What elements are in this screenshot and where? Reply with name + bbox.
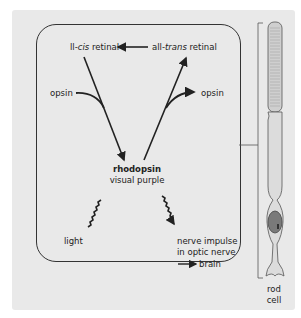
cis-retinal-label: ll-cis retinal	[70, 42, 119, 52]
trans-retinal-label: all-trans retinal	[152, 42, 217, 52]
nerve-squiggle-icon	[162, 196, 174, 224]
rod-label: rod	[262, 284, 286, 294]
opsin-left-label: opsin	[50, 88, 73, 98]
diagram-arrows	[0, 0, 301, 318]
rod-cell-body	[266, 112, 284, 276]
opsin-right-label: opsin	[201, 88, 224, 98]
nerve-impulse-label: nerve impulse	[177, 236, 238, 246]
light-squiggle-icon	[88, 200, 101, 227]
rhodopsin-label: rhodopsin	[107, 164, 167, 174]
visual-purple-label: visual purple	[104, 175, 170, 185]
opsin-left-curve	[76, 93, 104, 108]
rod-bracket	[258, 23, 263, 278]
optic-nerve-label: in optic nerve	[177, 247, 236, 257]
brain-label: brain	[199, 259, 221, 269]
rod-nucleus	[268, 211, 282, 233]
light-label: light	[64, 236, 83, 246]
rhodopsin-to-trans-arrow	[144, 58, 186, 160]
cis-to-rhodopsin-arrow	[84, 57, 124, 160]
cell-label: cell	[262, 295, 286, 305]
